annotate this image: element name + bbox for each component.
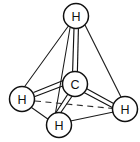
edge-bottom-right	[71, 112, 114, 121]
bond-c-h-left-line-b	[34, 85, 64, 97]
atom-h-right-label: H	[120, 103, 129, 117]
bond-c-h-bottom-line-b	[60, 96, 72, 114]
bond-c-h-top-line-a	[73, 29, 74, 72]
edge-top-right	[85, 25, 121, 97]
bond-c-h-top-line-b	[77, 29, 78, 72]
atom-h-top: H	[64, 4, 89, 29]
edge-left-bottom	[32, 108, 49, 120]
atom-h-bottom-label: H	[54, 119, 63, 133]
atom-h-top-label: H	[71, 10, 80, 24]
methane-diagram: H H H H C	[0, 0, 140, 142]
atom-h-bottom: H	[47, 113, 72, 138]
atom-h-left: H	[10, 87, 35, 112]
bond-c-h-right	[84, 88, 115, 108]
bond-c-h-top	[73, 29, 79, 72]
molecule-canvas: H H H H C	[0, 0, 140, 142]
atom-carbon-label: C	[70, 78, 79, 92]
atom-carbon-center: C	[63, 72, 88, 97]
edge-left-right-hidden	[35, 101, 113, 109]
bond-c-h-left-line-a	[34, 81, 64, 93]
atom-h-left-label: H	[17, 93, 26, 107]
atom-h-right: H	[113, 97, 138, 122]
atoms: H H H H C	[10, 4, 138, 138]
